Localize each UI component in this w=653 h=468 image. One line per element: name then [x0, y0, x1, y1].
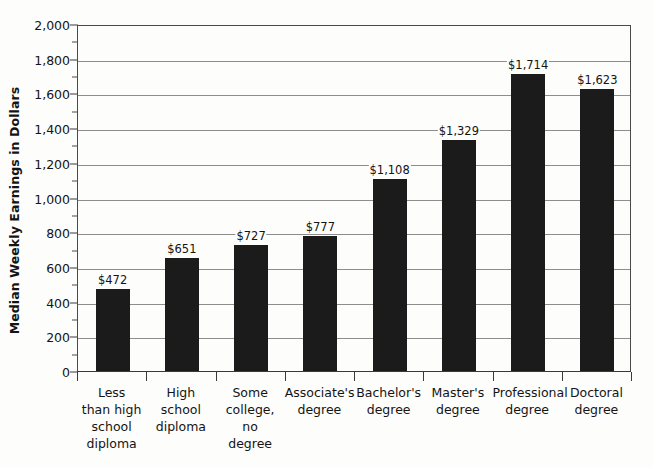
x-axis-category-label-line: diploma: [146, 418, 215, 435]
y-axis-tick-label: 1,600: [10, 87, 70, 102]
x-axis-category-label: Professionaldegree: [493, 384, 562, 418]
x-axis-category-label: Master'sdegree: [423, 384, 492, 418]
x-axis-tick: [631, 372, 632, 381]
y-axis-tick-label: 200: [10, 330, 70, 345]
x-axis-category-label: Doctoraldegree: [562, 384, 631, 418]
bar-slot: $1,623: [563, 26, 632, 371]
bar-slot: $472: [78, 26, 147, 371]
y-axis-tick-label: 800: [10, 226, 70, 241]
y-axis-tick-label: 1,800: [10, 52, 70, 67]
x-axis-category-label-line: degree: [354, 401, 423, 418]
bar-slot: $1,329: [424, 26, 493, 371]
x-axis-tick: [146, 372, 147, 381]
bar-slot: $1,714: [494, 26, 563, 371]
x-axis-category-label: Somecollege,nodegree: [216, 384, 285, 452]
x-axis-tick: [77, 372, 78, 381]
bar: [511, 74, 545, 371]
x-axis-category-label-line: High: [146, 384, 215, 401]
x-axis-category-label-line: no: [216, 418, 285, 435]
x-axis-category-label-line: degree: [216, 435, 285, 452]
x-axis-category-label-line: degree: [562, 401, 631, 418]
x-axis-category-label-line: than high: [77, 401, 146, 418]
x-axis-category-label-line: Less: [77, 384, 146, 401]
x-axis-tick: [216, 372, 217, 381]
x-axis-tick: [423, 372, 424, 381]
x-axis-category-label-line: Bachelor's: [354, 384, 423, 401]
x-axis-category-label: Highschooldiploma: [146, 384, 215, 435]
bar-slot: $777: [286, 26, 355, 371]
y-axis-tick-label: 2,000: [10, 18, 70, 33]
x-axis-category-label: Associate'sdegree: [285, 384, 354, 418]
y-axis-title: Median Weekly Earnings in Dollars: [2, 60, 28, 360]
y-axis-tick-label: 1,000: [10, 191, 70, 206]
bar: [580, 89, 614, 371]
bar-value-label: $1,623: [576, 74, 618, 87]
bar-value-label: $1,108: [369, 164, 411, 177]
y-axis-tick-label: 1,200: [10, 156, 70, 171]
x-axis-category-label-line: diploma: [77, 435, 146, 452]
x-axis-category-label-line: Some: [216, 384, 285, 401]
bar-slot: $1,108: [355, 26, 424, 371]
bar-slot: $651: [147, 26, 216, 371]
x-axis-category-label: Bachelor'sdegree: [354, 384, 423, 418]
bar-value-label: $1,329: [438, 125, 480, 138]
bar: [165, 258, 199, 371]
y-axis-tick-label: 1,400: [10, 122, 70, 137]
x-axis-tick: [354, 372, 355, 381]
bar: [303, 236, 337, 371]
bar-slot: $727: [217, 26, 286, 371]
bar: [96, 289, 130, 371]
x-axis-category-label-line: college,: [216, 401, 285, 418]
x-axis-tick: [562, 372, 563, 381]
x-axis-category-label-line: school: [77, 418, 146, 435]
x-axis-tick: [285, 372, 286, 381]
x-axis-category-label-line: Associate's: [285, 384, 354, 401]
y-axis-tick-label: 400: [10, 295, 70, 310]
bar: [373, 179, 407, 371]
x-axis-category-label-line: degree: [285, 401, 354, 418]
bar-chart: Median Weekly Earnings in Dollars 020040…: [0, 0, 653, 468]
bar: [234, 245, 268, 371]
bar: [442, 140, 476, 371]
x-axis-category-label-line: degree: [423, 401, 492, 418]
bar-value-label: $777: [305, 221, 336, 234]
x-axis-category-label-line: Professional: [493, 384, 562, 401]
y-axis-tick-label: 0: [10, 365, 70, 380]
bar-value-label: $472: [97, 274, 128, 287]
plot-area: $472$651$727$777$1,108$1,329$1,714$1,623: [77, 25, 631, 372]
bar-value-label: $651: [166, 243, 197, 256]
x-axis-category-label-line: school: [146, 401, 215, 418]
x-axis-category-label: Lessthan highschooldiploma: [77, 384, 146, 452]
x-axis-category-label-line: Master's: [423, 384, 492, 401]
bar-value-label: $727: [235, 230, 266, 243]
y-axis-tick-label: 600: [10, 260, 70, 275]
x-axis-category-label-line: Doctoral: [562, 384, 631, 401]
x-axis-category-label-line: degree: [493, 401, 562, 418]
bar-value-label: $1,714: [507, 59, 549, 72]
x-axis-tick: [493, 372, 494, 381]
